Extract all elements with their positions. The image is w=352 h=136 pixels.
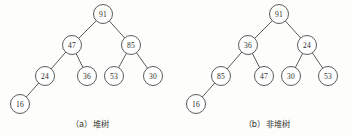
- tree-node[interactable]: 36: [239, 36, 258, 55]
- node-value: 91: [99, 10, 107, 19]
- tree-node[interactable]: 16: [11, 95, 30, 114]
- tree-edge-a2-a6: [136, 53, 147, 69]
- tree-node[interactable]: 36: [78, 67, 97, 86]
- tree-edge-a1-a3: [51, 52, 66, 69]
- tree-edge-b1-b4: [252, 53, 259, 67]
- tree-node[interactable]: 16: [187, 95, 206, 114]
- panel-caption-panel-a: （a）堆树: [71, 119, 110, 129]
- tree-edge-a1-a4: [76, 54, 83, 68]
- node-value: 30: [287, 72, 295, 81]
- panels-layer: 9147852436533016（a）堆树9136248547305316（b）…: [11, 5, 338, 130]
- panel-caption-panel-b: （b）非堆树: [244, 119, 291, 129]
- tree-edge-a0-a1: [79, 21, 97, 39]
- node-value: 53: [110, 72, 118, 81]
- tree-edge-b2-b6: [312, 53, 322, 68]
- binary-tree-diagram: 9147852436533016（a）堆树9136248547305316（b）…: [0, 0, 352, 136]
- tree-node[interactable]: 53: [319, 67, 338, 86]
- node-value: 24: [41, 72, 49, 81]
- tree-edge-b1-b3: [227, 52, 242, 69]
- tree-node[interactable]: 85: [122, 36, 141, 55]
- tree-nodes: 9147852436533016: [11, 5, 163, 114]
- tree-edge-a3-a7: [26, 83, 38, 97]
- tree-node[interactable]: 30: [144, 67, 163, 86]
- node-value: 24: [303, 41, 311, 50]
- node-value: 30: [149, 72, 157, 81]
- tree-edge-a0-a2: [109, 21, 124, 38]
- tree-node[interactable]: 47: [63, 36, 82, 55]
- tree-edge-a2-a5: [119, 53, 127, 67]
- node-value: 53: [324, 72, 332, 81]
- tree-edge-b0-b2: [285, 21, 300, 38]
- tree-panel-panel-a: 9147852436533016（a）堆树: [11, 5, 163, 130]
- tree-edge-b2-b5: [295, 53, 302, 67]
- tree-node[interactable]: 47: [255, 67, 274, 86]
- tree-edge-b3-b7: [202, 83, 214, 97]
- node-value: 47: [260, 72, 268, 81]
- tree-node[interactable]: 30: [282, 67, 301, 86]
- node-value: 16: [16, 100, 24, 109]
- node-value: 85: [127, 41, 135, 50]
- tree-node[interactable]: 53: [105, 67, 124, 86]
- node-value: 47: [68, 41, 76, 50]
- node-value: 85: [217, 72, 225, 81]
- tree-node[interactable]: 24: [298, 36, 317, 55]
- node-value: 16: [192, 100, 200, 109]
- tree-node[interactable]: 24: [36, 67, 55, 86]
- figure-root: 9147852436533016（a）堆树9136248547305316（b）…: [0, 0, 352, 136]
- tree-nodes: 9136248547305316: [187, 5, 338, 114]
- tree-panel-panel-b: 9136248547305316（b）非堆树: [187, 5, 338, 130]
- node-value: 36: [244, 41, 252, 50]
- node-value: 36: [83, 72, 91, 81]
- node-value: 91: [275, 10, 283, 19]
- tree-edge-b0-b1: [255, 21, 273, 39]
- tree-node[interactable]: 91: [270, 5, 289, 24]
- tree-node[interactable]: 85: [212, 67, 231, 86]
- tree-node[interactable]: 91: [94, 5, 113, 24]
